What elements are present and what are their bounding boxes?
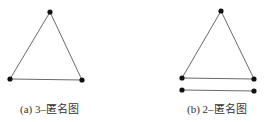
caption-b: (b) 2–匿名图 [187, 100, 247, 116]
edge-a-top-left [10, 12, 50, 79]
edge-b-top-right [221, 11, 254, 79]
graph-a [7, 9, 84, 82]
graph-b [179, 8, 256, 93]
caption-a: (a) 3–匿名图 [20, 100, 79, 116]
node-a-bottom-left [7, 76, 12, 81]
node-b-lower-right [251, 88, 256, 93]
node-b-bottom-left [179, 75, 184, 80]
edge-a-bottom [10, 79, 82, 80]
node-b-bottom-right [251, 76, 256, 81]
node-b-lower-left [179, 87, 184, 92]
edge-a-top-right [50, 12, 82, 80]
node-a-top [47, 9, 52, 14]
edge-b-bottom [182, 78, 254, 79]
edge-b-lower [182, 90, 254, 91]
node-a-bottom-right [79, 77, 84, 82]
edge-b-top-left [182, 11, 221, 78]
node-b-top [218, 8, 223, 13]
